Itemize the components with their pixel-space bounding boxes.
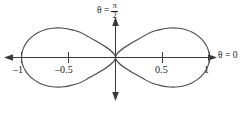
- y-axis-label-theta-equals: θ =: [97, 6, 109, 16]
- lemniscate-figure: θ = π 2 θ = 0 –1 –0.5 0.5 1: [0, 0, 252, 113]
- x-axis-label: θ = 0: [218, 51, 237, 61]
- x-tick-label-pos-one: 1: [204, 65, 209, 75]
- x-tick-label-neg-one: –1: [13, 65, 23, 75]
- y-axis-down-arrow-icon: [112, 92, 119, 101]
- plot-canvas: [0, 0, 252, 113]
- x-axis-group: [4, 54, 217, 61]
- x-tick-label-neg-half: –0.5: [55, 65, 73, 75]
- x-tick-label-pos-half: 0.5: [155, 65, 168, 75]
- x-axis-left-arrow-icon: [4, 54, 13, 61]
- fraction-denominator: 2: [112, 12, 118, 21]
- y-axis-label: θ = π 2: [97, 2, 118, 20]
- pi-over-two-fraction: π 2: [111, 2, 118, 20]
- fraction-numerator: π: [112, 2, 118, 11]
